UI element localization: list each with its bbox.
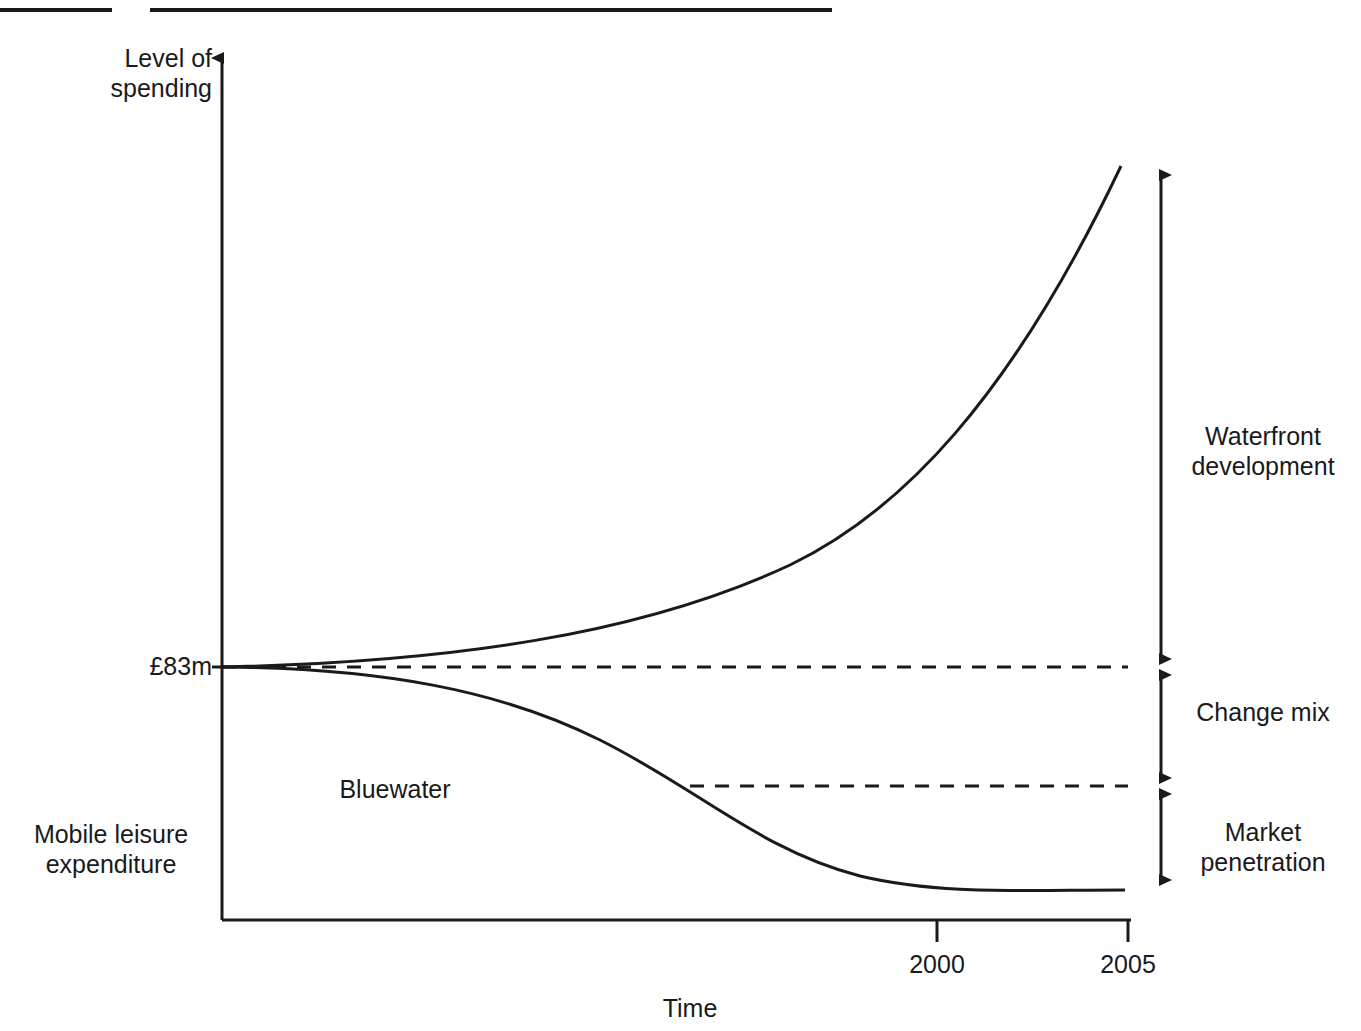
x-tick-label-2000: 2000 xyxy=(857,950,1017,980)
baseline-value-label: £83m xyxy=(40,652,212,682)
y-axis-label: Level of spending xyxy=(100,44,212,103)
x-axis-label: Time xyxy=(600,994,780,1024)
bracket-label-change-mix: Change mix xyxy=(1178,698,1348,728)
bracket-label-waterfront-development: Waterfront development xyxy=(1178,422,1348,481)
bracket-label-market-penetration: Market penetration xyxy=(1178,818,1348,877)
origin-note-label: Mobile leisure expenditure xyxy=(10,820,212,879)
bluewater-annotation: Bluewater xyxy=(265,775,525,805)
waterfront-growth-curve xyxy=(222,166,1121,667)
figure-page: Level of spending £83m Mobile leisure ex… xyxy=(0,0,1361,1031)
x-tick-label-2005: 2005 xyxy=(1048,950,1208,980)
